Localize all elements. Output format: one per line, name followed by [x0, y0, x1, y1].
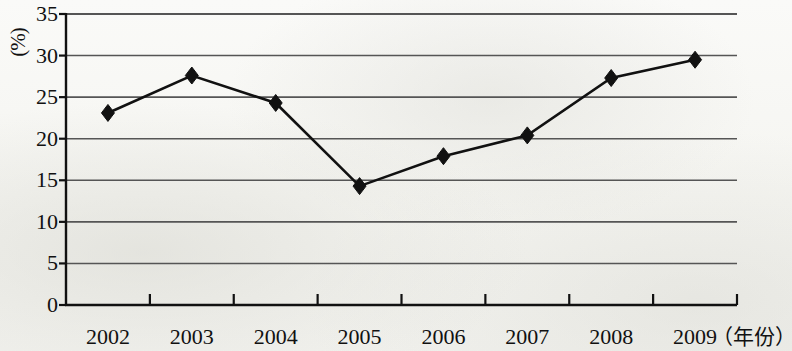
data-point-marker [605, 70, 618, 87]
x-axis-tick-label-2008: 2008 [566, 326, 656, 348]
x-axis-tick-label-2004: 2004 [231, 326, 321, 348]
data-point-marker [521, 127, 534, 144]
line-chart: (%) 05101520253035 200220032004200520062… [0, 0, 792, 351]
x-axis-tick-label-2007: 2007 [482, 326, 572, 348]
x-axis-title: （年份） [712, 327, 792, 348]
data-point-group [101, 51, 701, 194]
data-point-marker [437, 148, 450, 165]
data-point-marker [101, 104, 114, 121]
x-axis-tick-group [150, 294, 653, 305]
x-axis-tick-label-2003: 2003 [147, 326, 237, 348]
gridline-group [66, 14, 737, 263]
data-point-marker [689, 51, 702, 68]
x-axis-tick-label-2006: 2006 [398, 326, 488, 348]
x-axis-tick-label-2002: 2002 [63, 326, 153, 348]
plot-area [0, 0, 792, 351]
axis-group [65, 13, 737, 305]
x-axis-tick-label-2005: 2005 [315, 326, 405, 348]
data-point-marker [185, 67, 198, 84]
